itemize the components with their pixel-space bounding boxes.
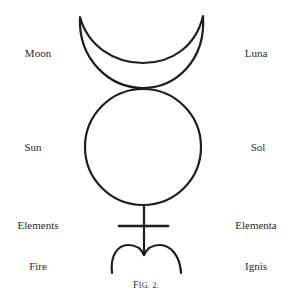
label-ignis: Ignis <box>221 260 291 272</box>
label-elementa: Elementa <box>221 219 291 231</box>
crescent-moon-icon <box>80 16 203 88</box>
sun-circle-icon <box>85 89 201 205</box>
label-sol: Sol <box>223 141 292 153</box>
caption-rest: IG. 2. <box>139 281 159 290</box>
fire-sign-icon <box>112 245 181 273</box>
figure-caption: FIG. 2. <box>0 279 292 290</box>
label-fire: Fire <box>3 260 73 272</box>
label-sun: Sun <box>0 141 68 153</box>
label-moon: Moon <box>3 47 73 59</box>
label-elements: Elements <box>3 219 73 231</box>
label-luna: Luna <box>221 47 291 59</box>
